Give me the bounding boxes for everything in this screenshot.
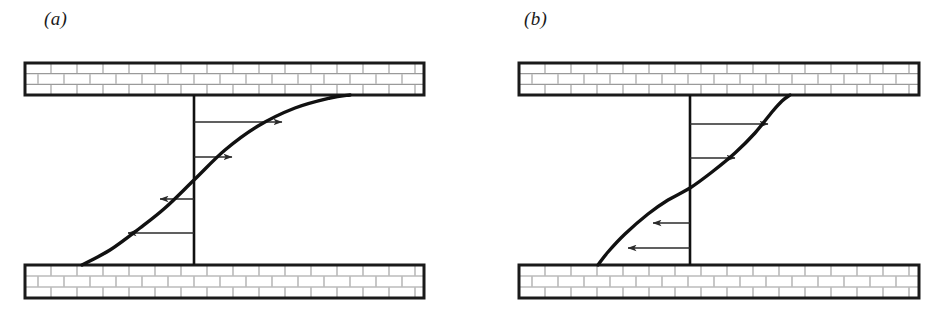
wall-fill: [25, 265, 424, 298]
wall-top: [519, 63, 919, 95]
diagram-drawing: [0, 0, 949, 325]
velocity-profile-curve: [82, 95, 350, 265]
wall-fill: [25, 63, 424, 95]
velocity-profile-curve: [598, 95, 790, 265]
wall-fill: [519, 265, 919, 298]
wall-bottom: [25, 265, 424, 298]
panel-b: [519, 63, 919, 298]
panel-a: [25, 63, 424, 298]
figure-canvas: (a) (b): [0, 0, 949, 325]
wall-top: [25, 63, 424, 95]
wall-bottom: [519, 265, 919, 298]
wall-fill: [519, 63, 919, 95]
